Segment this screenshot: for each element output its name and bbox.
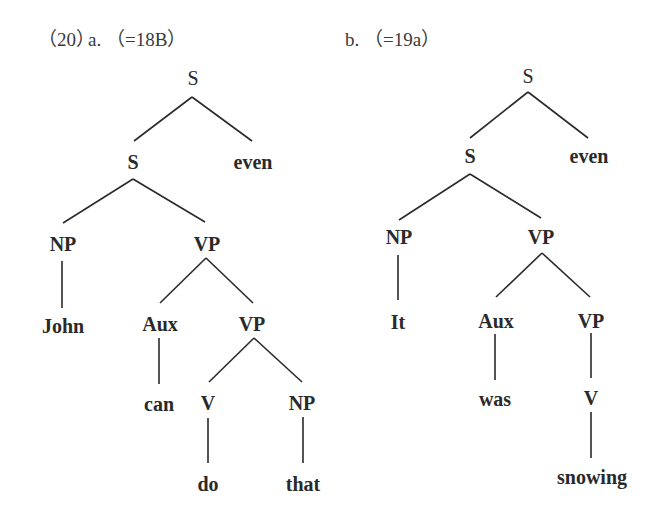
- tree-edge-vp1-vp2: [206, 258, 253, 303]
- tree-edge-vp2-np2: [254, 338, 302, 382]
- example-number: （20）: [38, 29, 95, 50]
- tree-node-v: V: [584, 387, 599, 409]
- tree-edge-s0-even: [192, 97, 252, 141]
- tree-node-vp: VP: [578, 310, 605, 332]
- tree-node-s: S: [127, 151, 138, 173]
- tree-node-john: John: [42, 315, 84, 337]
- tree-a-caption: a. （=18B）: [88, 29, 186, 50]
- tree-node-even: even: [570, 145, 609, 167]
- tree-edge-s0-s1: [470, 92, 528, 138]
- syntax-tree-figure: （20） a. （=18B） b. （=19a） SSevenNPVPJohnA…: [0, 0, 669, 529]
- tree-node-can: can: [144, 393, 174, 415]
- tree-node-that: that: [286, 473, 321, 495]
- tree-node-vp: VP: [239, 313, 266, 335]
- tree-edge-vp1-vp2: [542, 253, 590, 297]
- tree-edge-s0-s1: [134, 97, 192, 141]
- tree-node-np: NP: [386, 226, 413, 248]
- tree-edge-s1-vp1: [133, 179, 205, 222]
- tree-edge-s1-vp1: [470, 174, 541, 218]
- tree-node-snowing: snowing: [557, 466, 627, 489]
- tree-node-np: NP: [50, 233, 77, 255]
- tree-edge-s0-even: [528, 92, 588, 138]
- tree-node-v: V: [201, 392, 216, 414]
- tree-node-was: was: [479, 388, 511, 410]
- tree-node-aux: Aux: [142, 313, 178, 335]
- tree-node-s: S: [464, 145, 475, 167]
- tree-node-np: NP: [289, 392, 316, 414]
- tree-edge-vp1-aux: [496, 253, 542, 297]
- tree-edge-s1-np1: [63, 179, 133, 223]
- tree-node-vp: VP: [528, 226, 555, 248]
- tree-edge-s1-np1: [399, 174, 470, 220]
- tree-node-even: even: [234, 151, 273, 173]
- tree-node-s: S: [522, 65, 533, 87]
- tree-b-caption: b. （=19a）: [345, 29, 440, 50]
- tree-edge-vp1-aux: [160, 258, 206, 303]
- tree-node-do: do: [197, 473, 218, 495]
- tree-node-vp: VP: [194, 233, 221, 255]
- tree-node-it: It: [391, 311, 406, 333]
- tree-b: SSevenNPVPItAuxVPwasVsnowing: [386, 65, 627, 489]
- tree-node-s: S: [187, 67, 198, 89]
- tree-edge-vp2-v: [209, 338, 254, 382]
- tree-node-aux: Aux: [478, 310, 514, 332]
- tree-a: SSevenNPVPJohnAuxVPcanVNPdothat: [42, 67, 321, 495]
